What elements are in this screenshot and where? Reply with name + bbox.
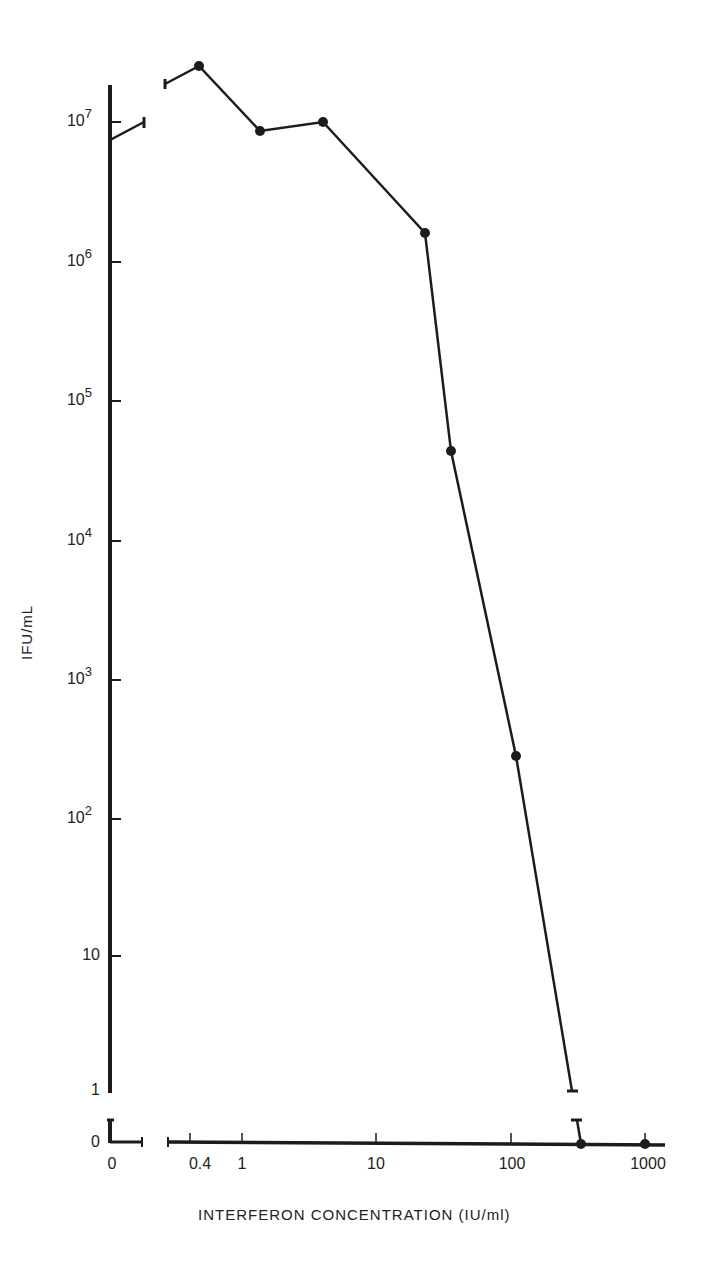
x-tick-label: 100 (482, 1155, 542, 1173)
y-tick-label: 107 (32, 108, 92, 130)
y-axis-title: IFU/mL (18, 605, 35, 660)
y-tick-label: 0 (40, 1133, 100, 1151)
y-tick-label: 106 (32, 248, 92, 270)
data-points (194, 61, 650, 1149)
x-tick-label: 10 (346, 1155, 406, 1173)
x-tick-label: 1000 (618, 1155, 678, 1173)
y-tick-label: 1 (40, 1081, 100, 1099)
x-tick-label: 0 (82, 1155, 142, 1173)
x-axis (168, 1142, 665, 1145)
x-tick-label: 1 (212, 1155, 272, 1173)
data-line (165, 66, 572, 1091)
chart-plot (0, 0, 706, 1266)
data-line-start (110, 122, 144, 140)
y-tick-label: 102 (32, 805, 92, 827)
y-tick-label: 104 (32, 527, 92, 549)
x-axis-title: INTERFERON CONCENTRATION (IU/ml) (198, 1206, 511, 1223)
y-tick-label: 105 (32, 387, 92, 409)
y-tick-label: 103 (32, 666, 92, 688)
y-tick-label: 10 (40, 946, 100, 964)
